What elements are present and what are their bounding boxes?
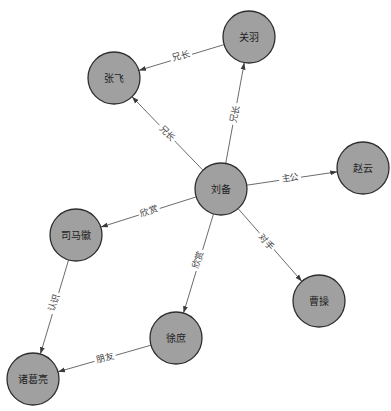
edge-label-text: 欣赏 <box>139 203 159 219</box>
edge-label-text: 兄长 <box>171 48 191 64</box>
node-zhangfei: 张飞 <box>88 52 140 104</box>
node-label: 刘备 <box>211 183 231 195</box>
node-label: 张飞 <box>104 73 124 84</box>
node-caocao: 曹操 <box>293 275 345 327</box>
edge-label-text: 认识 <box>46 293 62 313</box>
node-label: 赵云 <box>353 162 373 174</box>
edge-label-liubei-guanyu: 兄长 <box>227 102 243 126</box>
relationship-graph: 兄长 兄长 兄长 主公 欣赏 欣赏 对手 认识 <box>0 0 391 411</box>
edge-label-liubei-zhaoyun: 主公 <box>278 170 302 185</box>
node-zhugeliang: 诸葛亮 <box>7 353 59 405</box>
edge-label-liubei-simahui: 欣赏 <box>137 202 162 220</box>
edge-label-text: 欣赏 <box>190 250 206 270</box>
edge-label-guanyu-zhangfei: 兄长 <box>169 47 194 65</box>
node-label: 曹操 <box>309 295 329 307</box>
node-label: 关羽 <box>239 31 259 43</box>
node-guanyu: 关羽 <box>223 11 275 63</box>
node-liubei: 刘备 <box>195 163 247 215</box>
node-label: 诸葛亮 <box>18 373 48 385</box>
edge-label-xushu-zhugeliang: 朋友 <box>93 349 117 367</box>
nodes: 刘备 关羽 张飞 赵云 司马徽 徐庶 诸葛亮 曹操 <box>7 11 389 405</box>
edge-label-text: 朋友 <box>95 350 115 366</box>
node-label: 司马徽 <box>61 229 91 241</box>
edge-label-liubei-caocao: 对手 <box>254 230 278 254</box>
node-zhaoyun: 赵云 <box>337 142 389 194</box>
edge-label-liubei-xushu: 欣赏 <box>189 248 207 273</box>
edge-label-simahui-zhugeliang: 认识 <box>45 291 63 316</box>
node-xushu: 徐庶 <box>150 312 202 364</box>
node-simahui: 司马徽 <box>50 209 102 261</box>
node-label: 徐庶 <box>166 332 186 344</box>
